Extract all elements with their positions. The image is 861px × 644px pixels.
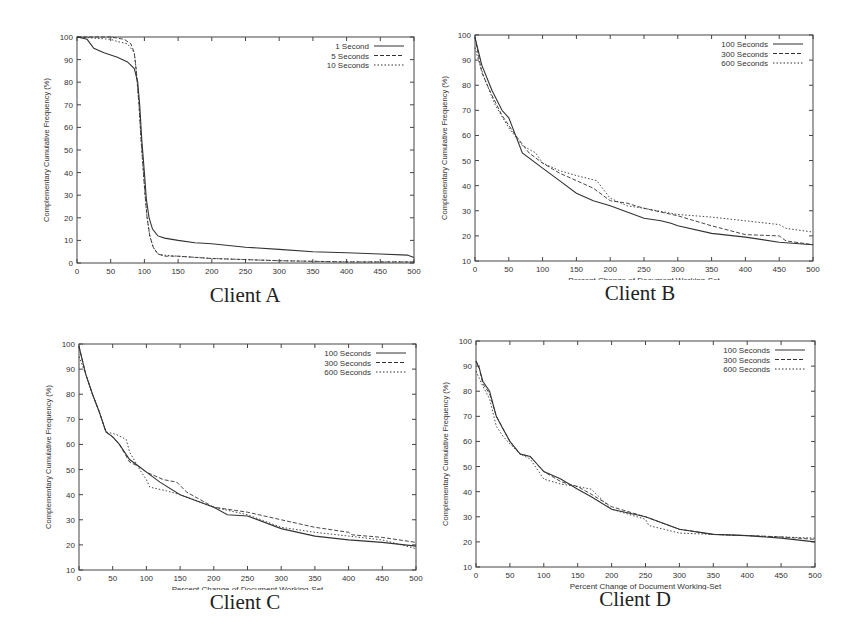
x-tick-label: 350	[707, 571, 721, 580]
x-tick-label: 250	[241, 574, 255, 583]
x-tick-label: 450	[774, 571, 788, 580]
x-tick-label: 150	[171, 267, 185, 276]
x-axis-label: Percent Change of Document Working-Set	[170, 278, 322, 280]
y-tick-label: 80	[66, 390, 75, 399]
legend-label: 100 Seconds	[324, 349, 371, 358]
y-tick-label: 40	[463, 488, 472, 497]
y-tick-label: 10	[64, 236, 73, 245]
y-tick-label: 40	[66, 491, 75, 500]
y-tick-label: 100	[458, 31, 472, 40]
series-line	[476, 371, 815, 538]
y-tick-label: 30	[462, 207, 471, 216]
x-tick-label: 50	[505, 571, 514, 580]
x-tick-label: 500	[407, 267, 421, 276]
x-tick-label: 50	[504, 265, 513, 274]
x-tick-label: 150	[173, 574, 187, 583]
y-tick-label: 20	[462, 232, 471, 241]
x-tick-label: 0	[77, 574, 82, 583]
x-tick-label: 150	[570, 265, 584, 274]
x-tick-label: 450	[773, 265, 787, 274]
y-tick-label: 80	[462, 81, 471, 90]
y-tick-label: 0	[69, 259, 74, 268]
series-line	[475, 48, 813, 233]
legend-label: 300 Seconds	[324, 359, 371, 368]
x-tick-label: 400	[340, 267, 354, 276]
chart-client-c: 0501001502002503003504004505001020304050…	[0, 320, 430, 590]
y-tick-label: 90	[66, 365, 75, 374]
series-line	[77, 37, 414, 262]
y-axis-label: Complementary Cumulative Frequency (%)	[441, 382, 450, 526]
y-tick-label: 60	[462, 131, 471, 140]
y-tick-label: 30	[66, 516, 75, 525]
x-tick-label: 400	[741, 571, 755, 580]
y-tick-label: 80	[463, 387, 472, 396]
y-tick-label: 60	[463, 437, 472, 446]
y-tick-label: 70	[463, 412, 472, 421]
legend-label: 600 Seconds	[324, 368, 371, 377]
plot-frame	[77, 37, 414, 263]
x-tick-label: 300	[273, 267, 287, 276]
y-axis-label: Complementary Cumulative Frequency (%)	[44, 385, 53, 529]
y-tick-label: 10	[66, 566, 75, 575]
x-tick-label: 200	[605, 571, 619, 580]
x-tick-label: 200	[207, 574, 221, 583]
x-tick-label: 250	[239, 267, 253, 276]
y-tick-label: 90	[462, 56, 471, 65]
x-tick-label: 50	[108, 574, 117, 583]
caption-client-b: Client B	[540, 281, 740, 306]
x-tick-label: 50	[106, 267, 115, 276]
chart-svg: 0501001502002503003504004505000102030405…	[0, 0, 430, 280]
y-tick-label: 50	[462, 157, 471, 166]
chart-client-b: 0501001502002503003504004505001020304050…	[430, 0, 861, 280]
y-tick-label: 60	[66, 440, 75, 449]
y-tick-label: 30	[463, 513, 472, 522]
y-tick-label: 40	[462, 182, 471, 191]
x-tick-label: 400	[342, 574, 356, 583]
x-tick-label: 400	[739, 265, 753, 274]
x-tick-label: 0	[75, 267, 80, 276]
x-tick-label: 450	[374, 267, 388, 276]
series-line	[475, 38, 813, 245]
legend-label: 300 Seconds	[721, 50, 768, 59]
y-tick-label: 20	[66, 541, 75, 550]
y-tick-label: 50	[66, 466, 75, 475]
y-tick-label: 30	[64, 191, 73, 200]
series-line	[476, 361, 815, 539]
y-tick-label: 80	[64, 78, 73, 87]
caption-client-d: Client D	[535, 587, 735, 612]
legend-label: 1 Second	[335, 42, 369, 51]
chart-client-d: 0501001502002503003504004505001020304050…	[430, 320, 861, 590]
x-tick-label: 500	[409, 574, 423, 583]
series-line	[77, 37, 414, 257]
x-tick-label: 500	[806, 265, 820, 274]
x-tick-label: 250	[637, 265, 651, 274]
legend-label: 5 Seconds	[331, 52, 369, 61]
series-line	[475, 38, 813, 245]
chart-svg: 0501001502002503003504004505001020304050…	[430, 0, 861, 280]
x-tick-label: 0	[474, 571, 479, 580]
x-tick-label: 100	[140, 574, 154, 583]
y-tick-label: 20	[64, 214, 73, 223]
legend-label: 600 Seconds	[723, 365, 770, 374]
y-tick-label: 70	[66, 415, 75, 424]
x-tick-label: 0	[473, 265, 478, 274]
y-tick-label: 90	[64, 56, 73, 65]
y-tick-label: 100	[60, 33, 74, 42]
x-tick-label: 450	[376, 574, 390, 583]
y-tick-label: 40	[64, 169, 73, 178]
y-tick-label: 50	[64, 146, 73, 155]
legend-label: 100 Seconds	[723, 346, 770, 355]
series-line	[476, 361, 815, 542]
x-tick-label: 100	[537, 571, 551, 580]
x-tick-label: 300	[671, 265, 685, 274]
y-axis-label: Complementary Cumulative Frequency (%)	[42, 78, 51, 222]
y-tick-label: 50	[463, 463, 472, 472]
legend-label: 100 Seconds	[721, 40, 768, 49]
y-tick-label: 100	[459, 337, 473, 346]
y-tick-label: 70	[64, 101, 73, 110]
chart-svg: 0501001502002503003504004505001020304050…	[430, 320, 861, 590]
y-tick-label: 10	[463, 563, 472, 572]
series-line	[77, 37, 414, 262]
caption-client-a: Client A	[145, 283, 345, 308]
legend-label: 300 Seconds	[723, 356, 770, 365]
